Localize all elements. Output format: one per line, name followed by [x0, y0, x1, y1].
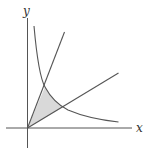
y-axis-label: y — [22, 4, 30, 18]
shaded-region — [28, 87, 64, 128]
diagram-canvas: x y — [0, 0, 153, 154]
x-axis-label: x — [136, 121, 143, 135]
